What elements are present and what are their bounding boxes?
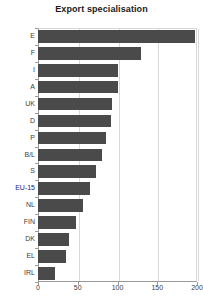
bar: [38, 132, 106, 145]
y-axis-labels: EFIAUKDPB/LSEU-15NLFINDKELIRL: [0, 28, 35, 282]
y-axis-tick: [35, 147, 38, 148]
bar: [38, 149, 102, 162]
y-axis-tick-label: DK: [0, 231, 35, 248]
y-axis-tick: [35, 113, 38, 114]
bar: [38, 30, 195, 43]
y-axis-tick-label: I: [0, 62, 35, 79]
x-axis-tick: [197, 282, 198, 285]
bar: [38, 47, 141, 60]
y-axis-tick: [35, 197, 38, 198]
y-axis-tick-label: EL: [0, 248, 35, 265]
y-axis-tick-label: F: [0, 45, 35, 62]
y-axis-tick-label: P: [0, 130, 35, 147]
y-axis-tick: [35, 79, 38, 80]
y-axis-tick: [35, 45, 38, 46]
y-axis-tick: [35, 214, 38, 215]
bar-row: [38, 231, 197, 248]
bar-row: [38, 214, 197, 231]
bar-row: [38, 28, 197, 45]
bar: [38, 182, 90, 195]
y-axis-tick-label: FIN: [0, 214, 35, 231]
x-axis-tick-label: 200: [191, 284, 203, 291]
export-specialisation-chart: Export specialisation EFIAUKDPB/LSEU-15N…: [0, 0, 203, 306]
y-axis-tick: [35, 130, 38, 131]
x-axis-tick: [38, 282, 39, 285]
bar-row: [38, 180, 197, 197]
bar: [38, 81, 118, 94]
bar: [38, 233, 69, 246]
bar: [38, 199, 83, 212]
y-axis-tick: [35, 180, 38, 181]
x-axis-tick: [78, 282, 79, 285]
x-axis-tick-label: 0: [36, 284, 40, 291]
bar: [38, 267, 55, 280]
bar: [38, 64, 118, 77]
x-axis-tick-label: 150: [151, 284, 163, 291]
y-axis-tick: [35, 28, 38, 29]
y-axis-tick: [35, 62, 38, 63]
y-axis-tick-label: NL: [0, 197, 35, 214]
bar-row: [38, 79, 197, 96]
y-axis-tick: [35, 265, 38, 266]
y-axis-tick-label: S: [0, 163, 35, 180]
y-axis-tick: [35, 231, 38, 232]
bar: [38, 98, 112, 111]
y-axis-tick: [35, 163, 38, 164]
bar-row: [38, 113, 197, 130]
y-axis-tick-label: EU-15: [0, 180, 35, 197]
bars-layer: [38, 28, 197, 282]
bar: [38, 216, 76, 229]
bar-row: [38, 197, 197, 214]
bar-row: [38, 45, 197, 62]
y-axis-tick-label: D: [0, 113, 35, 130]
y-axis-tick: [35, 96, 38, 97]
x-axis-tick: [157, 282, 158, 285]
bar: [38, 250, 66, 263]
x-gridline: [198, 29, 199, 281]
y-axis-tick-label: B/L: [0, 147, 35, 164]
y-axis-tick: [35, 248, 38, 249]
x-axis-tick: [118, 282, 119, 285]
bar-row: [38, 163, 197, 180]
chart-title: Export specialisation: [0, 4, 203, 14]
x-axis-tick-label: 50: [74, 284, 82, 291]
bar: [38, 165, 96, 178]
y-axis-tick: [35, 282, 38, 283]
x-axis-labels: 050100150200: [0, 284, 203, 298]
y-axis-tick-label: A: [0, 79, 35, 96]
bar-row: [38, 62, 197, 79]
bar-row: [38, 248, 197, 265]
bar-row: [38, 130, 197, 147]
bar-row: [38, 147, 197, 164]
y-axis-tick-label: UK: [0, 96, 35, 113]
y-axis-tick-label: IRL: [0, 265, 35, 282]
x-axis-tick-label: 100: [112, 284, 124, 291]
bar-row: [38, 96, 197, 113]
y-axis-tick-label: E: [0, 28, 35, 45]
bar: [38, 115, 111, 128]
bar-row: [38, 265, 197, 282]
